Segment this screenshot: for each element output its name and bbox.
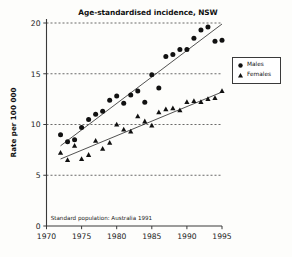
x-tick-label: 1980: [107, 232, 126, 241]
data-point-circle: [198, 28, 203, 33]
data-point-circle: [191, 36, 196, 41]
data-point-circle: [135, 89, 140, 94]
legend: Males Females: [232, 57, 281, 84]
x-tick-label: 1990: [177, 232, 196, 241]
data-point-triangle: [86, 152, 91, 157]
legend-label-females: Females: [247, 72, 271, 78]
data-point-circle: [163, 54, 168, 59]
data-point-circle: [72, 137, 77, 142]
data-point-triangle: [79, 156, 84, 161]
data-point-circle: [149, 72, 154, 77]
data-point-circle: [93, 112, 98, 117]
trend-line: [61, 92, 222, 159]
data-point-circle: [177, 47, 182, 52]
data-point-circle: [170, 52, 175, 57]
data-point-triangle: [72, 143, 77, 148]
x-tick-label: 1985: [142, 232, 161, 241]
data-point-triangle: [135, 114, 140, 119]
circle-marker-icon: [237, 62, 244, 69]
data-point-triangle: [170, 105, 175, 110]
trend-line: [61, 24, 222, 146]
data-point-circle: [86, 117, 91, 122]
data-point-triangle: [93, 138, 98, 143]
triangle-marker-icon: [237, 72, 244, 79]
trend-line-females: [61, 92, 222, 159]
data-point-circle: [107, 98, 112, 103]
data-point-triangle: [142, 119, 147, 124]
y-tick-label: 10: [31, 120, 41, 129]
data-point-circle: [142, 100, 147, 105]
data-point-circle: [220, 38, 225, 43]
data-point-circle: [79, 125, 84, 130]
x-tick-label: 1975: [72, 232, 91, 241]
data-point-triangle: [58, 150, 63, 155]
chart-figure: Age-standardised incidence, NSW Rate per…: [0, 0, 292, 257]
data-point-triangle: [184, 99, 189, 104]
y-tick-label: 5: [36, 171, 41, 180]
data-point-circle: [205, 25, 210, 30]
data-point-triangle: [163, 106, 168, 111]
data-point-triangle: [107, 140, 112, 145]
data-point-triangle: [114, 122, 119, 127]
y-tick-label: 15: [31, 70, 41, 79]
data-point-triangle: [156, 109, 161, 114]
plot-area: 197019751980198519901995 05101520 Standa…: [0, 0, 292, 257]
legend-item-males: Males: [237, 60, 264, 70]
data-point-circle: [156, 85, 161, 90]
x-tick-labels-group: 197019751980198519901995: [37, 226, 232, 241]
legend-label-males: Males: [247, 62, 264, 68]
gridlines-group: [47, 23, 223, 175]
data-point-circle: [212, 39, 217, 44]
x-tick-label: 1970: [37, 232, 56, 241]
data-point-triangle: [100, 146, 105, 151]
legend-item-females: Females: [237, 70, 271, 80]
data-point-circle: [100, 109, 105, 114]
data-point-triangle: [219, 88, 224, 93]
x-tick-label: 1995: [212, 232, 231, 241]
data-point-triangle: [121, 127, 126, 132]
y-tick-labels-group: 05101520: [31, 19, 47, 231]
standard-population-annotation: Standard population: Australia 1991: [51, 215, 153, 222]
axis-lines-group: [47, 19, 223, 226]
data-point-triangle: [65, 157, 70, 162]
data-point-circle: [65, 139, 70, 144]
data-point-triangle: [149, 123, 154, 128]
data-point-circle: [128, 93, 133, 98]
y-tick-label: 20: [31, 19, 41, 28]
trend-line-males: [61, 24, 222, 146]
annotation-group: Standard population: Australia 1991: [51, 215, 153, 222]
data-point-triangle: [191, 98, 196, 103]
data-point-circle: [184, 47, 189, 52]
data-point-circle: [114, 94, 119, 99]
y-tick-label: 0: [36, 222, 41, 231]
data-point-circle: [58, 132, 63, 137]
data-point-circle: [121, 101, 126, 106]
